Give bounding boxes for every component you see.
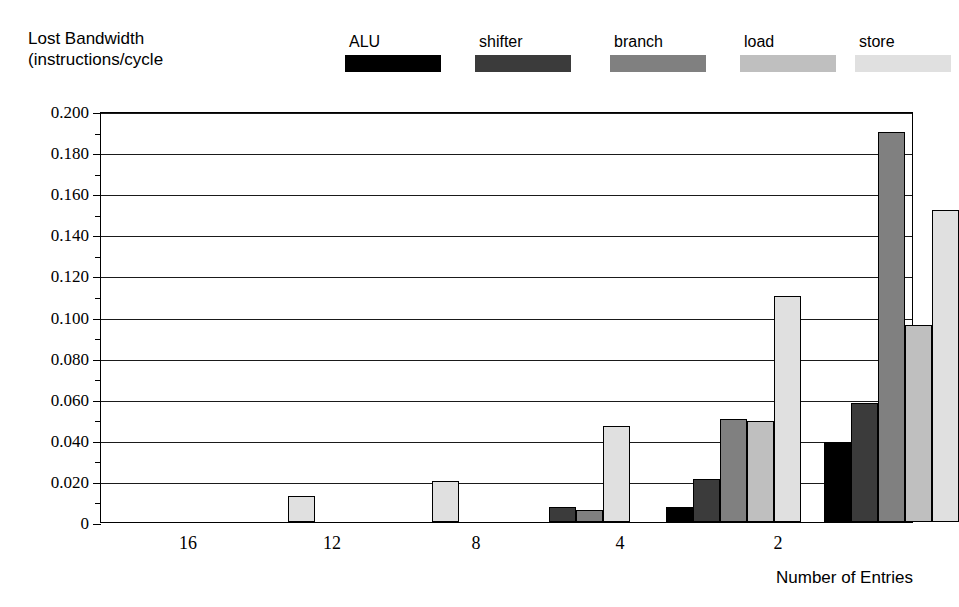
y-tick-minor <box>95 462 101 463</box>
bar-store-12 <box>432 481 459 522</box>
y-tick-minor <box>95 503 101 504</box>
y-tick-major <box>93 401 101 402</box>
y-tick-label: 0.080 <box>51 350 89 370</box>
y-axis-title-line2: (instructions/cycle <box>28 50 163 69</box>
gridline <box>101 195 912 196</box>
gridline <box>101 154 912 155</box>
x-axis-title: Number of Entries <box>776 568 913 588</box>
y-tick-minor <box>95 257 101 258</box>
legend-label-store: store <box>855 32 955 51</box>
y-tick-label: 0.040 <box>51 432 89 452</box>
bar-shifter-4 <box>693 479 720 522</box>
bar-store-4 <box>774 296 801 522</box>
y-tick-label: 0.160 <box>51 185 89 205</box>
y-tick-minor <box>95 134 101 135</box>
bar-branch-2 <box>878 132 905 522</box>
y-tick-major <box>93 442 101 443</box>
bar-store-16 <box>288 496 315 522</box>
bar-shifter-2 <box>851 403 878 522</box>
legend-swatch-store <box>855 55 951 72</box>
y-tick-major <box>93 319 101 320</box>
bar-store-2 <box>932 210 959 522</box>
bar-store-8 <box>603 426 630 522</box>
y-tick-major <box>93 277 101 278</box>
y-tick-minor <box>95 339 101 340</box>
chart-legend: ALUshifterbranchloadstore <box>345 32 945 82</box>
bar-load-4 <box>747 421 774 522</box>
legend-label-alu: ALU <box>345 32 445 51</box>
bar-branch-4 <box>720 419 747 522</box>
x-tick-label-2: 2 <box>774 533 783 554</box>
y-tick-label: 0.140 <box>51 226 89 246</box>
legend-label-load: load <box>740 32 840 51</box>
y-tick-major <box>93 113 101 114</box>
legend-swatch-shifter <box>475 55 571 72</box>
legend-item-load: load <box>740 32 840 72</box>
y-tick-label: 0.180 <box>51 144 89 164</box>
gridline <box>101 113 912 114</box>
gridline <box>101 236 912 237</box>
bar-load-2 <box>905 325 932 522</box>
bar-branch-8 <box>576 510 603 522</box>
y-tick-major <box>93 154 101 155</box>
y-tick-minor <box>95 298 101 299</box>
y-axis-title: Lost Bandwidth(instructions/cycle <box>28 28 163 70</box>
y-tick-label: 0.060 <box>51 391 89 411</box>
bar-alu-4 <box>666 507 693 522</box>
y-tick-major <box>93 195 101 196</box>
y-tick-major <box>93 360 101 361</box>
y-tick-minor <box>95 175 101 176</box>
x-tick-label-16: 16 <box>179 533 197 554</box>
y-tick-label: 0.100 <box>51 309 89 329</box>
y-tick-label: 0.200 <box>51 103 89 123</box>
legend-label-shifter: shifter <box>475 32 575 51</box>
y-axis-title-line1: Lost Bandwidth <box>28 29 144 48</box>
legend-label-branch: branch <box>610 32 710 51</box>
x-tick-label-4: 4 <box>616 533 625 554</box>
legend-swatch-branch <box>610 55 706 72</box>
plot-area: 00.0200.0400.0600.0800.1000.1200.1400.16… <box>100 112 913 523</box>
x-tick-label-8: 8 <box>472 533 481 554</box>
y-tick-label: 0.020 <box>51 473 89 493</box>
y-tick-minor <box>95 380 101 381</box>
legend-swatch-alu <box>345 55 441 72</box>
legend-item-store: store <box>855 32 955 72</box>
y-tick-major <box>93 483 101 484</box>
bar-shifter-8 <box>549 507 576 522</box>
y-tick-minor <box>95 216 101 217</box>
gridline <box>101 277 912 278</box>
y-tick-minor <box>95 421 101 422</box>
y-tick-major <box>93 236 101 237</box>
x-tick-label-12: 12 <box>323 533 341 554</box>
legend-item-alu: ALU <box>345 32 445 72</box>
legend-item-shifter: shifter <box>475 32 575 72</box>
legend-item-branch: branch <box>610 32 710 72</box>
y-tick-label: 0.120 <box>51 267 89 287</box>
bar-alu-2 <box>824 442 851 522</box>
legend-swatch-load <box>740 55 836 72</box>
y-tick-major <box>93 524 101 525</box>
y-tick-label: 0 <box>81 514 90 534</box>
